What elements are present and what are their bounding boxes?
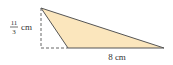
height-unit: cm: [21, 22, 32, 32]
base-label: 8 cm: [108, 52, 126, 62]
triangle-diagram: 11 3 cm 8 cm: [0, 0, 173, 65]
obtuse-triangle: [41, 8, 164, 48]
height-numerator: 11: [11, 19, 18, 27]
height-denominator: 3: [12, 28, 16, 36]
